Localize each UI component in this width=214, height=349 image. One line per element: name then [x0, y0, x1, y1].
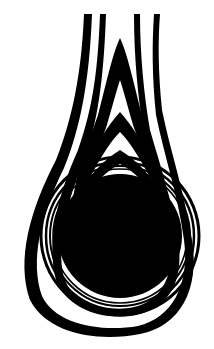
central-disk: [58, 174, 182, 298]
fringe-pattern-figure: [0, 0, 214, 349]
